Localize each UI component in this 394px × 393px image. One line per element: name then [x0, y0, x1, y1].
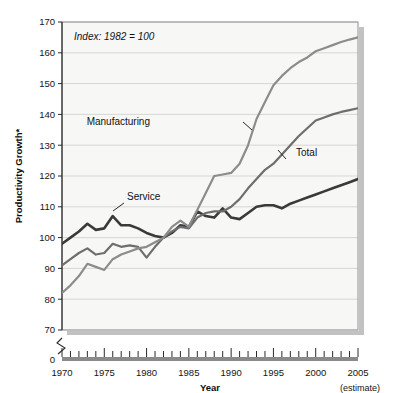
y-axis-zero-label: 0 [50, 354, 55, 365]
x-axis-tick-label: 1970 [51, 367, 72, 378]
series-label-text: Manufacturing [87, 116, 150, 127]
x-axis-tick-label: 1995 [263, 367, 284, 378]
x-axis-tick-label: 1980 [136, 367, 157, 378]
y-axis-tick-label: 170 [39, 16, 55, 27]
series-label-text: Service [127, 191, 161, 202]
x-axis-tick-label: 1975 [94, 367, 115, 378]
chart-canvas: 7080901001101201301401501601700197019751… [0, 0, 394, 393]
index-annotation: Index: 1982 = 100 [74, 31, 155, 42]
y-axis-tick-label: 140 [39, 109, 55, 120]
series-label-text: Total [296, 147, 317, 158]
y-axis-title: Productivity Growth* [13, 128, 24, 223]
y-axis-tick-label: 70 [44, 324, 55, 335]
y-axis-tick-label: 130 [39, 140, 55, 151]
y-axis-tick-label: 90 [44, 263, 55, 274]
axis-break-symbol [57, 338, 65, 354]
x-axis-tick-label: 1990 [221, 367, 242, 378]
y-axis-tick-label: 110 [40, 201, 55, 212]
x-axis-tick-label: 2000 [305, 367, 326, 378]
estimate-note: (estimate) [340, 383, 380, 393]
y-axis-tick-label: 160 [39, 47, 55, 58]
y-axis-tick-label: 120 [39, 170, 55, 181]
x-axis-tick-label: 1985 [178, 367, 199, 378]
x-axis-baseline [62, 357, 358, 361]
y-axis-tick-label: 100 [39, 232, 55, 243]
y-axis-tick-label: 80 [44, 294, 55, 305]
productivity-growth-chart: 7080901001101201301401501601700197019751… [0, 0, 394, 393]
y-axis-tick-label: 150 [39, 78, 55, 89]
x-axis-tick-label: 2005 [347, 367, 368, 378]
x-axis-title: Year [200, 382, 220, 393]
